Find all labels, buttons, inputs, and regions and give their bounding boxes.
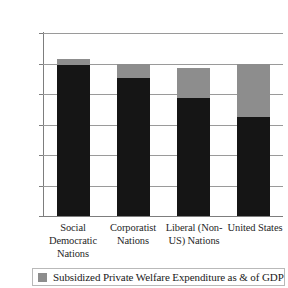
bar-segment-subsidized-private-welfare [177, 68, 210, 99]
stacked-bar-chart: 30% 25% 20% 15% 10% 5% 0% Social Democra… [0, 0, 288, 288]
bars-layer [43, 33, 283, 216]
bar-segment-net-public-welfare [177, 98, 210, 216]
x-label-line-1: United States [224, 221, 286, 234]
x-label-line-1: Social [43, 221, 103, 234]
legend-label-subsidized-private-welfare: Subsidized Private Welfare Expenditure a… [53, 271, 284, 283]
x-label-line-2: Nations [103, 234, 163, 247]
x-axis-label-united-states: United States [224, 221, 286, 234]
bar-segment-subsidized-private-welfare [237, 64, 270, 116]
x-label-line-2: US) Nations [163, 234, 225, 247]
x-label-line-1: Corporatist [103, 221, 163, 234]
tick-0 [39, 216, 43, 217]
legend-swatch-subsidized-private-welfare [38, 273, 47, 282]
bar-segment-subsidized-private-welfare [57, 59, 90, 66]
bar-united-states [237, 64, 270, 216]
x-label-line-3: Nations [43, 247, 103, 260]
x-label-line-1: Liberal (Non- [163, 221, 225, 234]
x-axis-label-liberal-non-us-nations: Liberal (Non- US) Nations [163, 221, 225, 247]
bar-segment-subsidized-private-welfare [117, 64, 150, 79]
chart-legend: Subsidized Private Welfare Expenditure a… [32, 268, 285, 286]
bar-social-democratic-nations [57, 59, 90, 216]
bar-segment-net-public-welfare [57, 65, 90, 216]
bar-corporatist-nations [117, 64, 150, 217]
plot-area: 30% 25% 20% 15% 10% 5% 0% [43, 33, 283, 216]
bar-segment-net-public-welfare [117, 78, 150, 216]
x-axis-label-corporatist-nations: Corporatist Nations [103, 221, 163, 247]
x-label-line-2: Democratic [43, 234, 103, 247]
bar-liberal-non-us-nations [177, 68, 210, 216]
x-axis-label-social-democratic-nations: Social Democratic Nations [43, 221, 103, 260]
gridline-0-baseline [43, 216, 283, 217]
x-axis-labels: Social Democratic Nations Corporatist Na… [43, 221, 283, 273]
bar-segment-net-public-welfare [237, 117, 270, 216]
